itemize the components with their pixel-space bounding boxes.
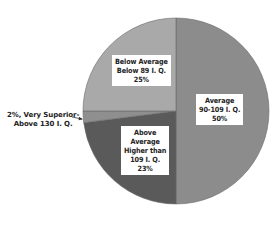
label-text: Average <box>199 96 240 105</box>
label-below-average: Below Average Below 89 I. Q. 25% <box>112 55 171 86</box>
label-text: Average <box>124 137 166 146</box>
label-text: 90-109 I. Q. <box>199 105 240 114</box>
label-text: 109 I. Q. <box>124 155 166 164</box>
label-text: Above 130 I. Q. <box>7 120 79 129</box>
label-text: Below 89 I. Q. <box>115 66 168 75</box>
label-text: 25% <box>115 75 168 84</box>
label-text: Below Average <box>115 57 168 66</box>
label-text: 2%, Very Superior- <box>7 111 79 120</box>
arrowhead-icon <box>79 117 83 120</box>
label-text: 50% <box>199 114 240 123</box>
label-text: 23% <box>124 164 166 173</box>
label-very-superior: 2%, Very Superior- Above 130 I. Q. <box>7 111 79 129</box>
label-text: Above <box>124 128 166 137</box>
label-above-average: Above Average Higher than 109 I. Q. 23% <box>121 126 169 175</box>
label-average: Average 90-109 I. Q. 50% <box>196 94 243 125</box>
label-text: Higher than <box>124 146 166 155</box>
